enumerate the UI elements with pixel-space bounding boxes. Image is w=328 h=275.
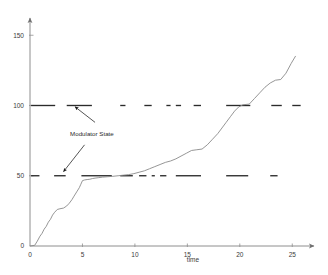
x-tick-label: 5 (81, 251, 85, 258)
y-tick-label: 50 (17, 172, 25, 179)
x-tick-label: 25 (289, 251, 297, 258)
x-tick-label: 20 (236, 251, 244, 258)
chart-canvas: 0510152025 050100150 time Modulator Stat… (0, 0, 328, 275)
x-axis-title: time (187, 256, 200, 263)
annotation-arrows (64, 107, 95, 172)
axes: 0510152025 050100150 time (13, 18, 314, 263)
x-axis-tick-labels: 0510152025 (28, 251, 296, 258)
annotation-arrow (75, 107, 95, 122)
x-tick-label: 10 (131, 251, 139, 258)
annotation-label: Modulator State (70, 130, 114, 137)
x-tick-label: 0 (28, 251, 32, 258)
y-tick-label: 0 (20, 242, 24, 249)
chart-figure: 0510152025 050100150 time Modulator Stat… (0, 0, 328, 275)
modulator-state-annotation: Modulator State (64, 107, 115, 172)
annotation-arrow (64, 145, 85, 172)
y-axis-tick-labels: 050100150 (13, 32, 24, 250)
y-tick-label: 150 (13, 32, 24, 39)
signal-curve (30, 56, 295, 246)
y-tick-label: 100 (13, 102, 24, 109)
